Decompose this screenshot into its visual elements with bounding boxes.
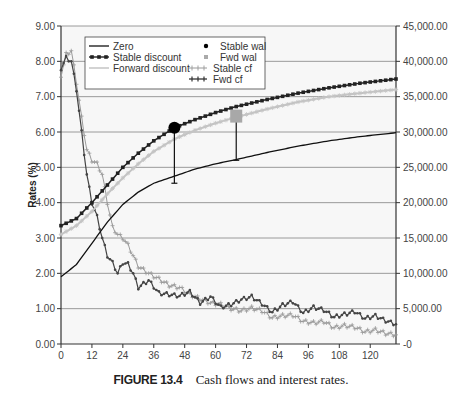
fwd-cf-marker: [201, 300, 204, 303]
fwd-cf-marker: [62, 62, 65, 65]
stable-discount-marker: [389, 78, 393, 82]
y2-tick-label: 35,000.00: [403, 91, 448, 102]
fwd-cf-marker: [132, 272, 135, 275]
forward-discount-marker: [74, 223, 78, 227]
fwd-cf-marker: [181, 292, 184, 295]
fwd-cf-marker: [294, 303, 297, 306]
stable-discount-marker: [338, 85, 342, 89]
stable-discount-marker: [64, 221, 68, 225]
fwd-cf-marker: [178, 295, 181, 298]
fwd-cf-marker: [96, 214, 99, 217]
forward-discount-marker: [255, 110, 259, 114]
fwd-cf-marker: [387, 320, 390, 323]
fwd-cf-marker: [281, 302, 284, 305]
stable-discount-marker: [348, 83, 352, 87]
stable-discount-marker: [90, 201, 94, 205]
fwd-cf-marker: [289, 299, 292, 302]
forward-discount-marker: [327, 94, 331, 98]
fwd-cf-marker: [258, 299, 261, 302]
fwd-cf-marker: [353, 312, 356, 315]
stable-discount-marker: [162, 132, 166, 136]
fwd-cf-marker: [307, 311, 310, 314]
fwd-cf-marker: [122, 263, 125, 266]
forward-discount-marker: [198, 126, 202, 130]
fwd-cf-marker: [176, 296, 179, 299]
fwd-cf-marker: [384, 321, 387, 324]
forward-discount-marker: [280, 103, 284, 107]
stable-discount-marker: [327, 86, 331, 90]
fwd-cf-marker: [199, 303, 202, 306]
legend-stable-discount-marker: [90, 55, 94, 59]
stable-discount-marker: [116, 171, 120, 175]
stable-discount-marker: [250, 101, 254, 105]
forward-discount-marker: [115, 181, 119, 185]
fwd-cf-marker: [152, 287, 155, 290]
x-tick-label: 36: [148, 350, 160, 361]
forward-discount-marker: [286, 102, 290, 106]
forward-discount-marker: [270, 106, 274, 110]
forward-discount-marker: [69, 226, 73, 230]
stable-discount-marker: [188, 120, 192, 124]
stable-discount-marker: [271, 97, 275, 101]
forward-discount-marker: [90, 209, 94, 213]
figure-caption: FIGURE 13.4 Cash flows and interest rate…: [0, 372, 462, 388]
fwd-cf-marker: [297, 304, 300, 307]
forward-discount-marker: [182, 132, 186, 136]
y-tick-label: 2.00: [36, 268, 56, 279]
fwd-cf-marker: [160, 294, 163, 297]
fwd-cf-marker: [348, 312, 351, 315]
forward-discount-marker: [389, 88, 393, 92]
fwd-cf-marker: [261, 304, 264, 307]
stable-discount-marker: [121, 166, 125, 170]
fwd-cf-marker: [323, 311, 326, 314]
y2-tick-label: 10,000.00: [403, 268, 448, 279]
forward-discount-marker: [260, 108, 264, 112]
stable-discount-marker: [363, 81, 367, 85]
legend-zero-label: Zero: [113, 41, 134, 52]
fwd-cf-marker: [330, 316, 333, 319]
fwd-cf-marker: [238, 301, 241, 304]
forward-discount-marker: [301, 99, 305, 103]
forward-discount-marker: [383, 88, 387, 92]
legend-fwd-wal-label: Fwd wal: [220, 52, 257, 63]
x-tick-label: 0: [58, 350, 64, 361]
stable-discount-marker: [384, 78, 388, 82]
fwd-cf-marker: [98, 228, 101, 231]
forward-discount-marker: [193, 128, 197, 132]
fwd-cf-marker: [377, 317, 380, 320]
forward-discount-marker: [394, 87, 398, 91]
legend-stable-discount-marker: [97, 55, 101, 59]
forward-discount-marker: [141, 157, 145, 161]
fwd-cf-marker: [279, 306, 282, 309]
forward-discount-marker: [110, 186, 114, 190]
forward-discount-marker: [316, 96, 320, 100]
stable-discount-marker: [85, 206, 89, 210]
fwd-cf-marker: [60, 69, 63, 72]
stable-discount-marker: [152, 139, 156, 143]
forward-discount-marker: [296, 100, 300, 104]
stable-discount-marker: [291, 92, 295, 96]
stable-discount-marker: [343, 84, 347, 88]
fwd-cf-marker: [333, 316, 336, 319]
stable-discount-marker: [204, 114, 208, 118]
stable-discount-marker: [379, 79, 383, 83]
fwd-cf-marker: [116, 272, 119, 275]
fwd-cf-marker: [341, 314, 344, 317]
fwd-cf-marker: [312, 304, 315, 307]
forward-discount-marker: [85, 214, 89, 218]
x-tick-label: 48: [179, 350, 191, 361]
fwd-cf-marker: [390, 319, 393, 322]
fwd-cf-marker: [225, 305, 228, 308]
x-tick-label: 96: [303, 350, 315, 361]
fwd-cf-marker: [147, 279, 150, 282]
fwd-cf-marker: [317, 307, 320, 310]
fwd-cf-marker: [276, 309, 279, 312]
figure-caption-text: Cash flows and interest rates.: [196, 372, 349, 387]
fwd-cf-marker: [305, 308, 308, 311]
fwd-cf-marker: [209, 295, 212, 298]
forward-discount-marker: [100, 198, 104, 202]
stable-discount-marker: [240, 104, 244, 108]
fwd-cf-marker: [119, 265, 122, 268]
fwd-wal-marker: [230, 110, 242, 123]
fwd-cf-marker: [171, 294, 174, 297]
